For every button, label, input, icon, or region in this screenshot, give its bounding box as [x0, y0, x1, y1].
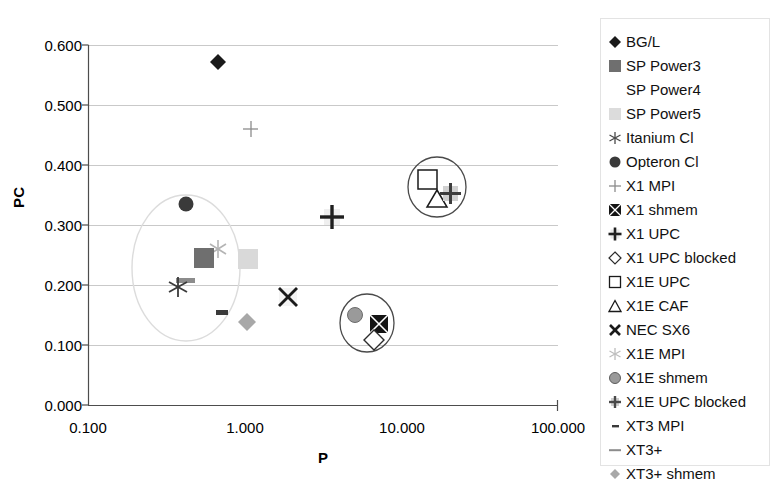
dash-long-icon — [605, 440, 625, 460]
legend-item-x1-upc[interactable]: X1 UPC — [605, 222, 769, 246]
left-cluster-ellipse — [132, 195, 240, 341]
legend-label: X1 UPC blocked — [625, 250, 736, 266]
x-tick-2: 10.000 — [357, 420, 447, 435]
scatter-chart: 0.600 0.500 0.400 0.300 0.200 0.100 0.00… — [0, 0, 774, 482]
axis-lines — [82, 45, 558, 411]
y-tick-5: 0.100 — [22, 338, 82, 353]
y-tick-2: 0.400 — [22, 158, 82, 173]
legend-item-itanium-cl[interactable]: Itanium Cl — [605, 126, 769, 150]
legend-label: SP Power4 — [625, 82, 701, 98]
x-tick-0: 0.100 — [43, 420, 133, 435]
legend-label: X1 UPC — [625, 226, 680, 242]
x-axis-title: P — [88, 449, 558, 466]
y-tick-1: 0.500 — [22, 98, 82, 113]
legend-item-nec-sx6[interactable]: NEC SX6 — [605, 318, 769, 342]
legend-item-sp-power4[interactable]: SP Power4 — [605, 78, 769, 102]
legend-item-opteron-cl[interactable]: Opteron Cl — [605, 150, 769, 174]
legend-item-sp-power3[interactable]: SP Power3 — [605, 54, 769, 78]
x-tick-3: 100.000 — [513, 420, 603, 435]
plus-box-icon — [605, 224, 625, 244]
y-tick-6: 0.000 — [22, 398, 82, 413]
square-filled-icon — [605, 56, 625, 76]
legend-item-x1-upc-blocked[interactable]: X1 UPC blocked — [605, 246, 769, 270]
legend-item-x1e-upc-blocked[interactable]: X1E UPC blocked — [605, 390, 769, 414]
legend-item-x1-mpi[interactable]: X1 MPI — [605, 174, 769, 198]
y-tick-3: 0.300 — [22, 218, 82, 233]
circle-filled-icon — [605, 152, 625, 172]
legend-item-x1e-shmem[interactable]: X1E shmem — [605, 366, 769, 390]
blank-icon — [605, 80, 625, 100]
y-tick-4: 0.200 — [22, 278, 82, 293]
legend-item-xt3plus[interactable]: XT3+ — [605, 438, 769, 462]
point-opteron-cl — [179, 197, 194, 212]
diamond-gray-icon — [605, 464, 625, 482]
legend-item-x1e-caf[interactable]: X1E CAF — [605, 294, 769, 318]
x-bold-icon — [605, 320, 625, 340]
legend-label: X1 MPI — [625, 178, 675, 194]
legend-item-x1-shmem[interactable]: X1 shmem — [605, 198, 769, 222]
legend-label: NEC SX6 — [625, 322, 690, 338]
legend-label: X1E UPC blocked — [625, 394, 746, 410]
point-x1-mpi — [243, 121, 258, 137]
legend-label: XT3+ shmem — [625, 466, 716, 482]
legend-label: X1E MPI — [625, 346, 685, 362]
point-bgl — [210, 54, 226, 70]
legend-label: SP Power3 — [625, 58, 701, 74]
point-x1e-upc — [418, 170, 437, 189]
plus-thin-icon — [605, 176, 625, 196]
circle-gray-icon — [605, 368, 625, 388]
legend-item-xt3plus-shmem[interactable]: XT3+ shmem — [605, 462, 769, 482]
square-light-icon — [605, 104, 625, 124]
legend-item-x1e-mpi[interactable]: X1E MPI — [605, 342, 769, 366]
point-xt3plus-shmem — [238, 313, 256, 331]
legend-label: X1E shmem — [625, 370, 708, 386]
legend-label: Opteron Cl — [625, 154, 699, 170]
legend-label: BG/L — [625, 34, 660, 50]
point-x1e-upc-blocked — [440, 183, 461, 204]
asterisk-icon — [605, 128, 625, 148]
legend-label: XT3 MPI — [625, 418, 684, 434]
legend-label: Itanium Cl — [625, 130, 694, 146]
legend-label: X1E UPC — [625, 274, 690, 290]
legend-item-x1e-upc[interactable]: X1E UPC — [605, 270, 769, 294]
x-tick-1: 1.000 — [200, 420, 290, 435]
legend-item-bgl[interactable]: BG/L — [605, 30, 769, 54]
point-x1e-shmem — [348, 308, 363, 323]
triangle-open-icon — [605, 296, 625, 316]
legend-item-sp-power5[interactable]: SP Power5 — [605, 102, 769, 126]
legend-item-xt3-mpi[interactable]: XT3 MPI — [605, 414, 769, 438]
y-axis-title: PC — [10, 187, 27, 208]
point-xt3-mpi — [216, 310, 228, 315]
y-axis-ticks: 0.600 0.500 0.400 0.300 0.200 0.100 0.00… — [18, 0, 82, 482]
diamond-filled-icon — [605, 32, 625, 52]
point-x1-shmem — [370, 315, 388, 333]
legend-label: XT3+ — [625, 442, 662, 458]
gridlines — [88, 46, 558, 346]
point-nec-sx6 — [279, 288, 297, 306]
asterisk-light-icon — [605, 344, 625, 364]
legend-label: SP Power5 — [625, 106, 701, 122]
point-sp-power3 — [194, 248, 214, 268]
square-open-icon — [605, 272, 625, 292]
dash-short-icon — [605, 416, 625, 436]
y-tick-0: 0.600 — [22, 38, 82, 53]
chart-legend: BG/L SP Power3 SP Power4 SP Power5 — [600, 18, 770, 466]
point-sp-power5 — [238, 249, 258, 269]
legend-label: X1E CAF — [625, 298, 689, 314]
diamond-open-icon — [605, 248, 625, 268]
x-box-icon — [605, 200, 625, 220]
plus-box-gray-icon — [605, 392, 625, 412]
legend-label: X1 shmem — [625, 202, 698, 218]
